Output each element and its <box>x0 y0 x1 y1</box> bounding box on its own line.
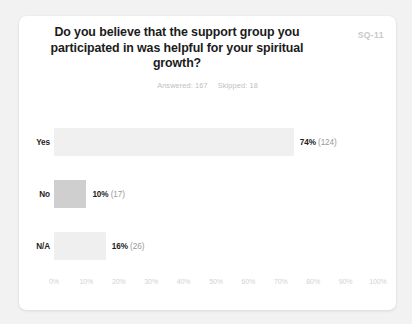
bar-row: N/A16% (26) <box>19 232 396 260</box>
x-axis-tick-label: 50% <box>209 278 223 285</box>
horizontal-bar-chart: Yes74% (124)No10% (17)N/A16% (26) 0%10%2… <box>19 120 396 310</box>
survey-code-badge: SQ-11 <box>358 30 384 40</box>
card-header: Do you believe that the support group yo… <box>19 16 396 72</box>
response-stats: Answered: 167Skipped: 18 <box>19 81 396 90</box>
bar-category-label: Yes <box>19 138 50 147</box>
bar-row: No10% (17) <box>19 180 396 208</box>
bar-track: 74% (124) <box>54 128 378 156</box>
bar-fill[interactable] <box>54 180 86 208</box>
x-axis-tick-label: 0% <box>49 278 59 285</box>
bar-category-label: No <box>19 190 50 199</box>
bar-fill[interactable] <box>54 232 106 260</box>
x-axis-tick-label: 100% <box>369 278 387 285</box>
bar-percent: 74% <box>300 138 316 147</box>
x-axis-tick-label: 70% <box>274 278 288 285</box>
survey-question-card: Do you believe that the support group yo… <box>19 16 396 310</box>
bar-count: (17) <box>108 190 124 199</box>
x-axis-tick-label: 10% <box>80 278 94 285</box>
bar-value-label: 74% (124) <box>300 138 337 147</box>
x-axis-tick-label: 40% <box>177 278 191 285</box>
bar-fill[interactable] <box>54 128 294 156</box>
x-axis-tick-label: 90% <box>339 278 353 285</box>
bar-count: (26) <box>128 242 144 251</box>
bar-count: (124) <box>316 138 337 147</box>
bar-track: 10% (17) <box>54 180 378 208</box>
answered-count: Answered: 167 <box>157 81 208 90</box>
bar-value-label: 16% (26) <box>112 242 144 251</box>
x-axis-tick-label: 60% <box>242 278 256 285</box>
skipped-count: Skipped: 18 <box>218 81 258 90</box>
bar-percent: 16% <box>112 242 128 251</box>
x-axis-tick-label: 20% <box>112 278 126 285</box>
bar-value-label: 10% (17) <box>92 190 124 199</box>
page-title: Do you believe that the support group yo… <box>43 25 311 72</box>
x-axis-tick-label: 80% <box>306 278 320 285</box>
bar-percent: 10% <box>92 190 108 199</box>
bar-category-label: N/A <box>19 242 50 251</box>
bar-track: 16% (26) <box>54 232 378 260</box>
x-axis-tick-label: 30% <box>144 278 158 285</box>
x-axis: 0%10%20%30%40%50%60%70%80%90%100% <box>54 278 378 294</box>
bar-row: Yes74% (124) <box>19 128 396 156</box>
